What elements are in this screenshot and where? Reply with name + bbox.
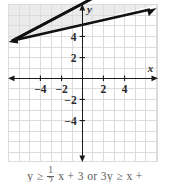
- coordinate-plane: x y −4 −2 2 4 4 2 −2 −4: [0, 0, 170, 182]
- caption-lead: y ≥: [27, 170, 43, 182]
- caption-fraction-numerator: 1: [47, 166, 54, 176]
- inequality-caption: y ≥ 1 2 x + 3 or 3y ≥ x +: [0, 166, 170, 182]
- y-tick-label-neg2: −2: [64, 94, 77, 106]
- y-tick-label-2: 2: [71, 52, 77, 64]
- caption-rest: x + 3 or 3y ≥ x +: [58, 170, 143, 182]
- y-tick-label-neg4: −4: [64, 115, 77, 127]
- y-axis-label: y: [85, 3, 92, 15]
- x-tick-label-neg4: −4: [34, 83, 47, 95]
- x-axis-label: x: [147, 62, 154, 74]
- inequality-graph-figure: x y −4 −2 2 4 4 2 −2 −4 y ≥ 1 2 x + 3 or…: [0, 0, 170, 182]
- caption-fraction: 1 2: [47, 166, 54, 182]
- caption-fraction-denominator: 2: [47, 176, 54, 182]
- x-tick-label-4: 4: [122, 83, 128, 95]
- x-tick-label-2: 2: [101, 83, 107, 95]
- y-tick-label-4: 4: [71, 31, 77, 43]
